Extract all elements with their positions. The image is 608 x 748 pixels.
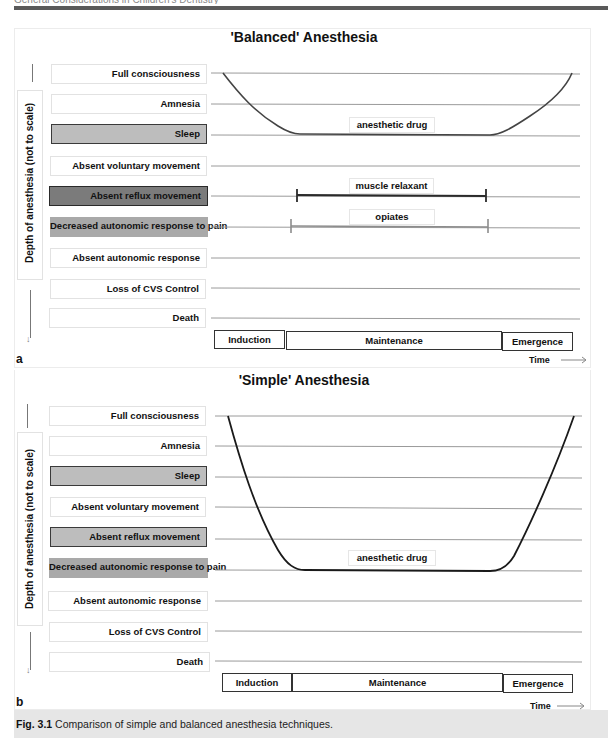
caption-text: Comparison of simple and balanced anesth… (55, 718, 333, 730)
caption-label: Fig. 3.1 (16, 718, 52, 730)
chart-lines-b (0, 0, 608, 748)
figure-caption: Fig. 3.1 Comparison of simple and balanc… (14, 710, 608, 738)
anesthetic-drug-label-b: anesthetic drug (348, 550, 436, 566)
phase-induction-b: Induction (222, 673, 292, 692)
time-arrow-b (557, 703, 584, 709)
phase-maintenance-b: Maintenance (292, 673, 503, 692)
anesthetic-curve-b (228, 416, 574, 571)
panel-letter-b: b (16, 695, 23, 709)
phase-emergence-b: Emergence (503, 674, 573, 693)
